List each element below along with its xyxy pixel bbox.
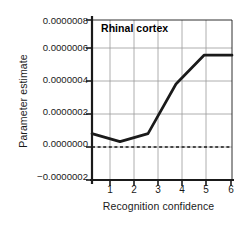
- x-tick-label: 2: [122, 183, 146, 196]
- horizontal-gridlines: [92, 48, 232, 147]
- x-tick-label: 1: [98, 183, 122, 196]
- vertical-gridlines: [110, 20, 206, 180]
- x-axis-title: Recognition confidence: [72, 200, 245, 212]
- x-axis-tick-labels: 1 2 3 4 5 6: [92, 183, 232, 199]
- chart-title: Rhinal cortex: [101, 22, 168, 34]
- x-tick-label: 6: [219, 183, 243, 196]
- x-tick-label: 3: [146, 183, 170, 196]
- chart-figure: Parameter estimate 0.0000008 0.0000006 0…: [0, 0, 245, 229]
- x-tick-label: 4: [170, 183, 194, 196]
- x-tick-label: 5: [194, 183, 218, 196]
- axis-spines: [90, 16, 234, 184]
- data-series-line: [92, 55, 232, 141]
